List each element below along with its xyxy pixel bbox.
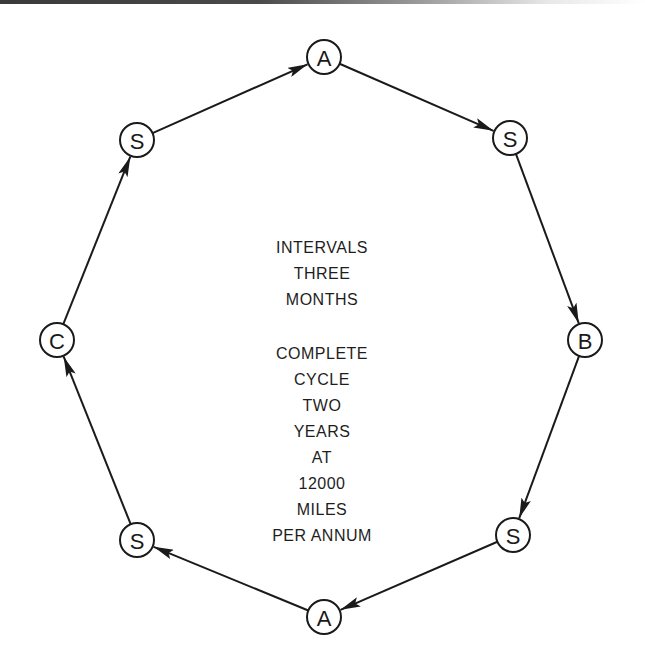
caption-line-months: MONTHS xyxy=(222,292,422,308)
node-label: A xyxy=(317,46,332,71)
caption-line-complete: COMPLETE xyxy=(222,346,422,362)
caption-line-at: AT xyxy=(222,450,422,466)
node-a-1: A xyxy=(307,40,341,74)
arrow-n1-to-n2 xyxy=(340,64,494,131)
node-s-2: S xyxy=(493,121,527,155)
caption-line-two: TWO xyxy=(222,398,422,414)
arrow-n7-to-n8 xyxy=(63,157,130,325)
caption-line-cycle: CYCLE xyxy=(222,372,422,388)
node-s-4: S xyxy=(496,518,530,552)
caption-line-years: YEARS xyxy=(222,424,422,440)
arrow-n8-to-n1 xyxy=(153,64,308,133)
arrow-n4-to-n5 xyxy=(341,542,498,610)
nodes-group: ASBSASCS xyxy=(40,40,602,634)
caption-line-intervals: INTERVALS xyxy=(222,240,422,256)
node-label: S xyxy=(130,129,145,154)
arrow-n2-to-n3 xyxy=(516,154,579,323)
arrow-n6-to-n7 xyxy=(64,357,131,525)
node-label: S xyxy=(503,127,518,152)
caption-line-miles: MILES xyxy=(222,502,422,518)
node-c-7: C xyxy=(40,323,74,357)
node-a-5: A xyxy=(307,600,341,634)
arrow-n3-to-n4 xyxy=(519,356,579,518)
node-label: C xyxy=(49,329,65,354)
arrow-n5-to-n6 xyxy=(154,547,309,611)
node-label: S xyxy=(130,529,145,554)
caption-line-three: THREE xyxy=(222,266,422,282)
node-label: A xyxy=(317,606,332,631)
caption-line-per-annum: PER ANNUM xyxy=(222,528,422,544)
cycle-diagram: ASBSASCS xyxy=(0,0,645,662)
caption-line-mileage: 12000 xyxy=(222,476,422,492)
node-label: S xyxy=(506,524,521,549)
node-s-8: S xyxy=(120,123,154,157)
node-s-6: S xyxy=(120,523,154,557)
node-label: B xyxy=(578,329,593,354)
node-b-3: B xyxy=(568,323,602,357)
